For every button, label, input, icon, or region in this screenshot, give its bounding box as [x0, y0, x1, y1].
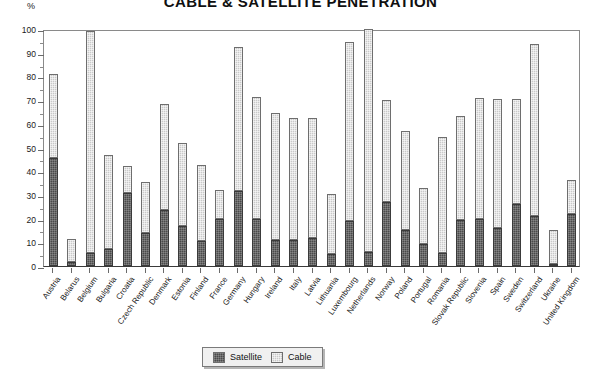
x-axis-tick	[441, 268, 442, 273]
bar-segment-cable	[567, 180, 576, 214]
bar-latvia	[308, 118, 317, 266]
x-axis-tick	[552, 268, 553, 273]
y-axis-tick-label: 60	[12, 120, 36, 130]
bar-netherlands	[364, 29, 373, 266]
bar-segment-satellite	[252, 219, 261, 266]
bar-segment-cable	[289, 118, 298, 240]
bar-estonia	[178, 143, 187, 266]
bar-segment-cable	[49, 74, 58, 158]
bar-slovenia	[475, 98, 484, 266]
x-axis-tick	[293, 268, 294, 273]
bar-segment-satellite	[271, 240, 280, 266]
bar-segment-satellite	[456, 220, 465, 266]
bar-segment-cable	[549, 230, 558, 263]
bar-segment-satellite	[438, 253, 447, 266]
bar-segment-cable	[493, 99, 502, 228]
bar-germany	[234, 47, 243, 266]
y-axis-tick-label: 70	[12, 96, 36, 106]
x-axis-tick	[126, 268, 127, 273]
legend-entry-satellite: Satellite	[213, 352, 262, 363]
bar-segment-cable	[197, 165, 206, 241]
bar-segment-satellite	[308, 238, 317, 266]
y-axis-tick-label: 30	[12, 191, 36, 201]
x-axis-tick	[497, 268, 498, 273]
bar-czech-republic	[141, 182, 150, 266]
bar-segment-cable	[438, 137, 447, 253]
satellite-swatch-icon	[213, 352, 225, 363]
bars-layer	[44, 31, 579, 266]
x-axis-tick	[367, 268, 368, 273]
x-axis-tick	[52, 268, 53, 273]
bar-france	[215, 190, 224, 266]
x-axis-tick	[460, 268, 461, 273]
bar-segment-cable	[308, 118, 317, 238]
y-axis-tick-label: 90	[12, 49, 36, 59]
x-axis-tick	[108, 268, 109, 273]
x-axis-tick	[534, 268, 535, 273]
x-axis-tick	[571, 268, 572, 273]
bar-segment-satellite	[234, 191, 243, 266]
x-axis-tick	[386, 268, 387, 273]
bar-croatia	[123, 166, 132, 266]
cable-satellite-penetration-chart: CABLE & SATELLITE PENETRATION % 01020304…	[0, 0, 601, 374]
bar-segment-cable	[364, 29, 373, 252]
x-axis-tick	[182, 268, 183, 273]
bar-ireland	[271, 113, 280, 266]
x-axis-label-ireland: Ireland	[263, 275, 284, 300]
bar-segment-satellite	[123, 193, 132, 266]
y-axis-unit-label: %	[27, 1, 35, 11]
bar-lithuania	[327, 194, 336, 266]
bar-segment-cable	[345, 42, 354, 221]
bar-segment-satellite	[178, 226, 187, 266]
bar-finland	[197, 165, 206, 266]
x-axis-tick	[145, 268, 146, 273]
bar-slovak-republic	[456, 116, 465, 266]
bar-segment-satellite	[567, 214, 576, 266]
bar-belarus	[67, 239, 76, 266]
bar-segment-cable	[160, 104, 169, 211]
x-axis-tick	[515, 268, 516, 273]
legend-label-cable: Cable	[288, 352, 312, 362]
x-axis-tick	[89, 268, 90, 273]
bar-segment-satellite	[67, 262, 76, 266]
bar-poland	[401, 131, 410, 266]
bar-segment-cable	[123, 166, 132, 192]
bar-segment-cable	[456, 116, 465, 220]
bar-italy	[289, 118, 298, 266]
bar-segment-satellite	[327, 254, 336, 266]
legend-entry-cable: Cable	[271, 352, 312, 363]
x-axis-tick	[312, 268, 313, 273]
bar-portugal	[419, 188, 428, 266]
x-axis-tick	[349, 268, 350, 273]
x-axis-tick	[274, 268, 275, 273]
bar-segment-cable	[475, 98, 484, 219]
y-axis-tick-label: 10	[12, 238, 36, 248]
legend-label-satellite: Satellite	[230, 352, 262, 362]
bar-hungary	[252, 97, 261, 266]
x-axis-tick	[478, 268, 479, 273]
bar-segment-satellite	[475, 219, 484, 266]
bar-segment-cable	[141, 182, 150, 233]
x-axis-tick	[219, 268, 220, 273]
bar-austria	[49, 74, 58, 266]
cable-swatch-icon	[271, 352, 283, 363]
bar-segment-satellite	[141, 233, 150, 266]
bar-segment-cable	[234, 47, 243, 192]
bar-segment-satellite	[401, 230, 410, 266]
bar-segment-cable	[512, 99, 521, 204]
bar-segment-satellite	[49, 158, 58, 266]
x-axis-tick	[256, 268, 257, 273]
y-axis-tick-label: 80	[12, 72, 36, 82]
y-axis-tick-label: 20	[12, 215, 36, 225]
bar-luxembourg	[345, 42, 354, 266]
bar-segment-satellite	[382, 202, 391, 266]
bar-segment-satellite	[197, 241, 206, 266]
plot-area	[43, 30, 580, 267]
bar-segment-cable	[401, 131, 410, 231]
bar-segment-satellite	[289, 240, 298, 266]
bar-segment-cable	[178, 143, 187, 226]
bar-norway	[382, 100, 391, 266]
x-axis-tick	[200, 268, 201, 273]
bar-segment-satellite	[345, 221, 354, 266]
y-axis-tick-label: 40	[12, 167, 36, 177]
